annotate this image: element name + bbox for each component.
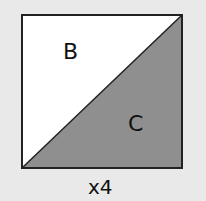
multiplier-label: x4 xyxy=(88,177,113,197)
square-diagram xyxy=(0,0,206,201)
label-c: C xyxy=(128,113,143,135)
label-b: B xyxy=(63,41,78,63)
